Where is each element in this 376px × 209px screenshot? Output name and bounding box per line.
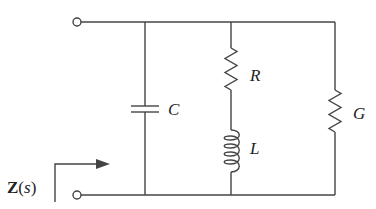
arrow-head-icon [96,159,110,169]
capacitor-branch [131,22,159,195]
inductor-l [224,130,239,172]
top-terminal [73,18,81,26]
resistor-label: R [249,66,261,85]
impedance-z: Z [7,178,18,197]
impedance-close-paren: ) [31,178,37,197]
capacitor-label: C [168,100,180,119]
rl-branch [224,22,239,195]
resistor-r [225,48,237,90]
inductor-label: L [249,139,259,158]
conductance-label: G [353,104,365,123]
resistor-g [329,90,341,132]
circuit-svg: C R L G Z(s) [0,0,376,209]
g-branch [329,22,341,195]
circuit-diagram: C R L G Z(s) [0,0,376,209]
impedance-label: Z(s) [7,178,36,197]
bottom-terminal [73,191,81,199]
